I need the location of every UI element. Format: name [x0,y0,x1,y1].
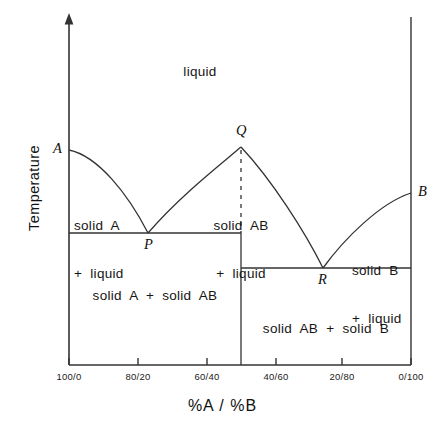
y-axis-title: Temperature [26,108,43,268]
point-label-p: P [144,236,153,253]
point-label-b: B [418,183,427,200]
x-tick-label-80-20: 80/20 [118,371,158,382]
point-label-r: R [318,271,327,288]
point-label-a: A [53,140,62,157]
x-tick-label-0-100: 0/100 [391,371,431,382]
point-label-q: Q [236,122,246,139]
region-label-liquid: liquid [183,64,216,80]
region-label-solid-ab-plus-liquid-line2: + liquid [213,266,268,282]
x-tick-label-100-0: 100/0 [49,371,89,382]
x-axis-ticks [69,358,411,365]
region-label-solid-a-plus-solid-ab: solid A + solid AB [93,288,218,304]
region-label-solid-ab-plus-solid-b: solid AB + solid B [263,321,389,337]
region-label-solid-b-plus-liquid-line1: solid B [352,263,402,279]
region-label-solid-ab-plus-liquid: solid AB + liquid [213,186,268,313]
x-tick-label-60-40: 60/40 [187,371,227,382]
region-label-solid-b-plus-liquid: solid B + liquid [352,231,402,358]
region-label-solid-ab-plus-liquid-line1: solid AB [213,218,268,234]
x-tick-label-40-60: 40/60 [256,371,296,382]
x-tick-label-20-80: 20/80 [322,371,362,382]
phase-diagram-figure: liquid solid A + liquid solid AB + liqui… [0,0,445,443]
region-label-solid-a-plus-liquid-line2: + liquid [74,266,124,282]
y-axis-arrowhead [65,13,74,25]
region-label-solid-a-plus-liquid-line1: solid A [74,218,124,234]
x-axis-title: %A / %B [0,397,445,416]
